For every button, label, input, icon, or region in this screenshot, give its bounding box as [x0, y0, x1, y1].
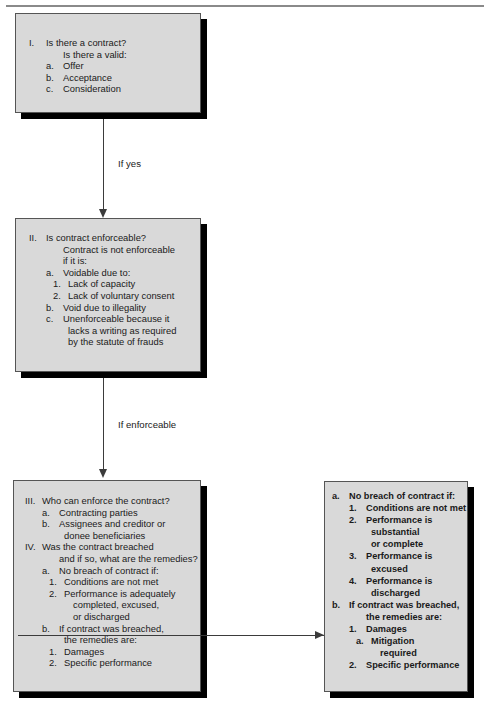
node-1-line: I.Is there a contract?: [29, 37, 127, 49]
list-marker: [349, 611, 366, 623]
list-marker: b.: [42, 623, 59, 635]
list-marker: c.: [46, 313, 63, 325]
list-text: Voidable due to:: [63, 267, 130, 279]
list-marker: [356, 563, 371, 575]
node-3-line: III.Who can enforce the contract?: [25, 495, 198, 507]
list-text: the remedies are:: [366, 611, 442, 623]
node-3-line: 1.Damages: [25, 646, 198, 658]
list-marker: a.: [332, 490, 349, 502]
edge-contract-to-enforceable-arrowhead-icon: [99, 209, 107, 218]
node-3-line: a.Contracting parties: [25, 507, 198, 519]
list-text: No breach of contract if:: [59, 565, 159, 577]
list-text: Contract is not enforceable: [63, 244, 175, 256]
node-1-line: Is there a valid:: [29, 49, 127, 61]
node-1-line: c.Consideration: [29, 83, 127, 95]
list-marker: c.: [46, 83, 63, 95]
list-text: required: [380, 647, 417, 659]
list-text: Damages: [64, 646, 104, 658]
list-marker: 1.: [49, 646, 64, 658]
list-marker: b.: [46, 72, 63, 84]
node-1-text: I.Is there a contract?Is there a valid:a…: [29, 37, 127, 95]
list-text: excused: [371, 563, 408, 575]
list-text: donee beneficiaries: [64, 530, 145, 542]
node-4-line: a.Mitigation: [332, 635, 466, 647]
list-marker: [53, 336, 68, 348]
node-4-line: b.If contract was breached,: [332, 599, 466, 611]
edge-enforceable-to-remedies-line: [103, 378, 104, 473]
edge-contract-to-enforceable-line: [103, 119, 104, 213]
list-marker: 2.: [49, 657, 64, 669]
node-3-line: completed, excused,: [25, 599, 198, 611]
list-text: or discharged: [73, 611, 130, 623]
list-marker: [365, 647, 380, 659]
node-1-line: a.Offer: [29, 60, 127, 72]
node-4-line: excused: [332, 563, 466, 575]
node-2-line: by the statute of frauds: [29, 336, 176, 348]
node-4-line: substantial: [332, 526, 466, 538]
list-marker: 4.: [349, 575, 366, 587]
node-2-line: Contract is not enforceable: [29, 244, 176, 256]
node-3-line: b.If contract was breached,: [25, 623, 198, 635]
list-text: substantial: [371, 526, 420, 538]
top-divider-rule: [6, 5, 484, 7]
list-text: by the statute of frauds: [68, 336, 163, 348]
list-text: Assignees and creditor or: [59, 518, 165, 530]
node-4-line: the remedies are:: [332, 611, 466, 623]
list-marker: b.: [332, 599, 349, 611]
list-marker: [356, 538, 371, 550]
node-3-line: 2.Performance is adequately: [25, 588, 198, 600]
list-text: or complete: [371, 538, 423, 550]
edge-breached-to-detail-arrowhead-icon: [315, 631, 324, 639]
list-marker: 1.: [349, 502, 366, 514]
node-2-line: b.Void due to illegality: [29, 302, 176, 314]
list-text: if it is:: [63, 255, 87, 267]
list-text: Damages: [366, 623, 407, 635]
list-text: Performance is adequately: [64, 588, 176, 600]
node-4-text: a.No breach of contract if:1.Conditions …: [332, 490, 466, 671]
list-marker: [356, 587, 371, 599]
node-3-line: IV.Was the contract breached: [25, 541, 198, 553]
node-3-line: or discharged: [25, 611, 198, 623]
list-text: Is contract enforceable?: [46, 232, 146, 244]
list-text: Performance is: [366, 575, 432, 587]
list-text: Consideration: [63, 83, 121, 95]
node-2-line: 1.Lack of capacity: [29, 278, 176, 290]
node-3-line: donee beneficiaries: [25, 530, 198, 542]
list-marker: [49, 530, 64, 542]
list-text: Specific performance: [366, 659, 459, 671]
list-marker: 2.: [49, 588, 64, 600]
edge-enforceable-to-remedies-arrowhead-icon: [99, 469, 107, 478]
edge-contract-to-enforceable-label: If yes: [118, 158, 141, 169]
node-3-text: III.Who can enforce the contract?a.Contr…: [25, 495, 198, 669]
list-marker: [42, 553, 59, 565]
list-text: Conditions are not met: [366, 502, 466, 514]
list-marker: 3.: [349, 550, 366, 562]
list-text: Unenforceable because it: [63, 313, 169, 325]
node-2-text: II.Is contract enforceable?Contract is n…: [29, 232, 176, 348]
list-marker: b.: [46, 302, 63, 314]
edge-enforceable-to-remedies-label: If enforceable: [118, 419, 176, 430]
node-4-line: 1.Conditions are not met: [332, 502, 466, 514]
list-marker: [58, 611, 73, 623]
list-marker: 1.: [349, 623, 366, 635]
list-text: No breach of contract if:: [349, 490, 455, 502]
list-marker: IV.: [25, 541, 42, 553]
list-text: Mitigation: [371, 635, 414, 647]
list-text: Who can enforce the contract?: [42, 495, 170, 507]
node-4-line: 4.Performance is: [332, 575, 466, 587]
list-marker: I.: [29, 37, 46, 49]
node-2-line: 2.Lack of voluntary consent: [29, 290, 176, 302]
list-marker: [58, 599, 73, 611]
list-text: Specific performance: [64, 657, 152, 669]
node-4-line: a.No breach of contract if:: [332, 490, 466, 502]
node-3-line: 1.Conditions are not met: [25, 576, 198, 588]
list-text: Conditions are not met: [64, 576, 158, 588]
list-text: Contracting parties: [59, 507, 138, 519]
flow-node-remedies-detail: a.No breach of contract if:1.Conditions …: [324, 481, 468, 692]
list-marker: III.: [25, 495, 42, 507]
list-text: Is there a valid:: [63, 49, 127, 61]
list-marker: 2.: [53, 290, 68, 302]
node-3-line: b.Assignees and creditor or: [25, 518, 198, 530]
list-text: Was the contract breached: [42, 541, 154, 553]
list-marker: a.: [356, 635, 371, 647]
